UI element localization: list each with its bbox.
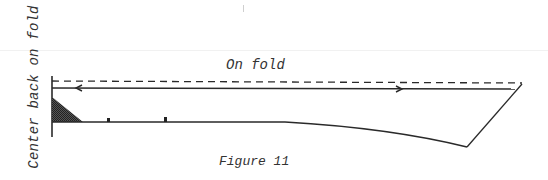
center-back-label: Center back on fold xyxy=(26,5,42,168)
shaded-corner xyxy=(52,97,83,122)
pattern-diagram xyxy=(0,0,548,180)
notch-dot-icon xyxy=(164,117,167,122)
side-seam xyxy=(467,84,522,147)
grainline xyxy=(52,88,515,89)
on-fold-label: On fold xyxy=(226,57,285,73)
notch-dot-icon xyxy=(107,118,110,122)
figure-caption: Figure 11 xyxy=(219,154,289,169)
hem-curve xyxy=(52,122,467,147)
fold-line xyxy=(52,81,522,83)
